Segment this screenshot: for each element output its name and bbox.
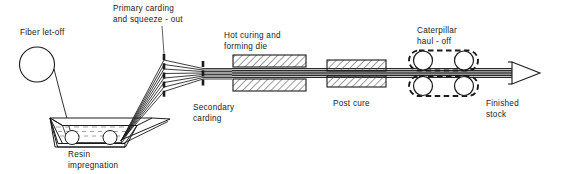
- label-secondary-carding: Secondary carding: [193, 103, 234, 124]
- fiber-fan-bundle: [121, 60, 164, 141]
- resin-impregnation-bath: [50, 118, 170, 147]
- label-primary-carding: Primary carding and squeeze - out: [113, 4, 183, 25]
- diagram-canvas: [0, 0, 564, 174]
- hot-curing-forming-die: [233, 55, 306, 91]
- label-fiber-let-off: Fiber let-off: [20, 28, 65, 39]
- fiber-converge-secondary-die: [203, 69, 232, 80]
- caterpillar-haul-off-upper: [409, 51, 478, 71]
- finished-stock-arrow: [508, 62, 540, 84]
- fiber-let-off-spool: [20, 47, 55, 82]
- label-hot-curing-die: Hot curing and forming die: [224, 31, 281, 52]
- label-post-cure: Post cure: [333, 99, 370, 110]
- pultrusion-process-diagram: Fiber let-off Primary carding and squeez…: [0, 0, 564, 174]
- primary-carding-leader-line: [162, 26, 164, 54]
- fiber-converge-primary-secondary: [164, 60, 203, 92]
- caterpillar-haul-off-lower: [409, 76, 478, 96]
- label-caterpillar-haul-off: Caterpillar haul - off: [417, 26, 457, 47]
- label-resin-impregnation: Resin impregnation: [68, 150, 118, 171]
- label-finished-stock: Finished stock: [486, 99, 519, 120]
